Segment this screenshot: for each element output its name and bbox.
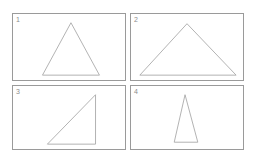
triangle-isosceles-acute-icon	[13, 14, 125, 80]
triangle-shape-1	[42, 23, 99, 75]
panel-1[interactable]: 1	[12, 13, 126, 81]
triangle-shape-2	[140, 24, 236, 75]
triangle-isosceles-obtuse-wide-icon	[131, 14, 243, 80]
triangle-grid-canvas: 1 2 3 4	[0, 0, 257, 159]
triangle-isosceles-narrow-tall-icon	[131, 86, 243, 149]
panel-3[interactable]: 3	[12, 85, 126, 150]
triangle-shape-4	[174, 95, 198, 142]
panel-2[interactable]: 2	[130, 13, 244, 81]
triangle-shape-3	[47, 95, 95, 144]
panel-4[interactable]: 4	[130, 85, 244, 150]
triangle-right-angle-icon	[13, 86, 125, 149]
